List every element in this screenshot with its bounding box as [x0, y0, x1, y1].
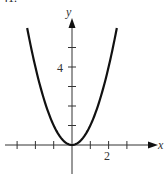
y-tick-label-4: 4 [57, 61, 63, 75]
y-axis [68, 18, 76, 174]
x-axis-arrow-icon [148, 142, 158, 149]
y-axis-label: y [65, 5, 72, 19]
y-axis-arrow-icon [69, 18, 76, 28]
x-axis-label: x [157, 138, 164, 152]
x-axis [5, 141, 158, 149]
x-tick-label-2: 2 [104, 149, 110, 163]
parabola-graph: x y 2 4 [0, 0, 165, 175]
